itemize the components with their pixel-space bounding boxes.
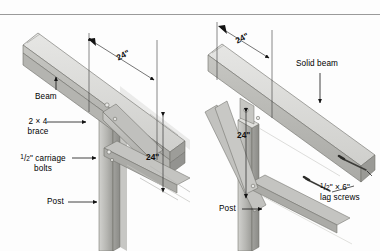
label-left-post: Post <box>47 197 64 207</box>
label-beam: Beam <box>35 92 57 102</box>
left-assembly <box>23 33 190 251</box>
dim-left-vertical: 24" <box>146 152 159 162</box>
label-solid-beam: Solid beam <box>296 59 338 69</box>
illustration-figure: Beam 2 × 4 brace 1/2" carriage bolts Pos… <box>0 0 380 251</box>
label-brace-line2: brace <box>28 127 49 136</box>
label-lag-fraction: 1/2 <box>320 183 330 192</box>
label-lag-line2: lag screws <box>320 193 360 202</box>
label-carriage-bolts: 1/2" carriage bolts <box>12 152 74 174</box>
label-brace-line1: 2 × 4 <box>29 117 48 126</box>
label-right-post: Post <box>219 204 236 214</box>
dim-right-vertical: 24" <box>237 130 250 140</box>
label-bolts-line1-rest: " carriage <box>30 154 66 163</box>
bolts-frac-numerator: 1 <box>20 153 24 160</box>
label-lag-line1-rest: " × 6" <box>330 183 350 192</box>
lag-frac-numerator: 1 <box>320 182 324 189</box>
label-bolts-line2: bolts <box>34 164 52 173</box>
label-bolts-fraction: 1/2 <box>20 154 30 163</box>
label-brace: 2 × 4 brace <box>14 117 62 137</box>
label-lag-screws: 1/2" × 6" lag screws <box>320 181 360 203</box>
